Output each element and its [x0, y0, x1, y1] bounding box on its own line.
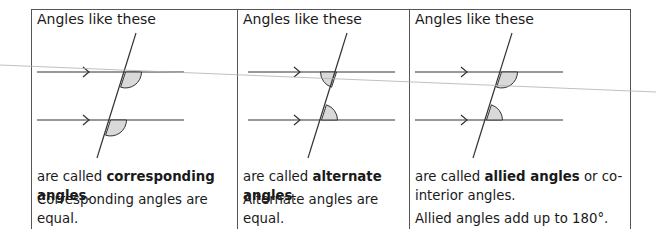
- term: allied angles: [484, 169, 579, 184]
- transversal-line: [473, 33, 512, 158]
- transversal-line: [97, 33, 136, 158]
- panel-corresponding: Angles like these are called correspondi…: [32, 10, 237, 229]
- transversal-line: [308, 33, 347, 158]
- rule-text: Alternate angles are equal.: [243, 190, 383, 228]
- angles-table: Angles like these are called correspondi…: [31, 9, 631, 229]
- allied-angles-diagram: [410, 10, 633, 170]
- corresponding-angles-diagram: [32, 10, 237, 170]
- angle-arc-icon: [121, 72, 142, 88]
- definition-text: are called allied angles or co-interior …: [415, 167, 630, 205]
- panel-alternate: Angles like these are called alternate a…: [237, 10, 409, 229]
- angle-arc-icon: [497, 72, 518, 88]
- alternate-angles-diagram: [238, 10, 410, 170]
- rule-text: Allied angles add up to 180°.: [415, 209, 630, 228]
- rule-text: Corresponding angles are equal.: [37, 190, 237, 228]
- panel-allied: Angles like these are called allied angl…: [409, 10, 632, 229]
